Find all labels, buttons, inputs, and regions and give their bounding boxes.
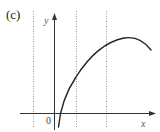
y-axis-label: y xyxy=(43,15,49,26)
graph-figure: (c) y x 0 xyxy=(0,0,160,132)
guide-lines xyxy=(34,11,107,128)
y-axis-arrow-icon xyxy=(52,13,57,20)
x-axis-arrow-icon xyxy=(149,111,156,116)
x-axis-label: x xyxy=(140,118,146,129)
origin-label: 0 xyxy=(46,115,51,126)
panel-label: (c) xyxy=(6,7,20,22)
